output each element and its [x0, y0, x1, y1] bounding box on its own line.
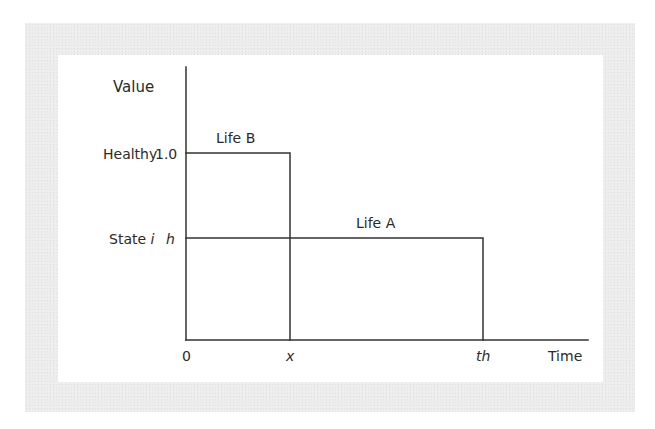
- diagram-canvas: [0, 0, 655, 429]
- life-a-label: Life A: [356, 216, 395, 230]
- tick-x-label: x: [286, 349, 294, 363]
- state-i-label: State i: [109, 232, 154, 246]
- x-axis-label: Time: [548, 349, 582, 363]
- state-text: State: [109, 231, 151, 247]
- y-axis-label: Value: [113, 80, 154, 95]
- state-index: i: [151, 231, 155, 247]
- life-a-rect: [186, 238, 483, 340]
- tick-zero-label: 0: [182, 349, 191, 363]
- tick-h-label: h: [166, 232, 175, 246]
- life-b-label: Life B: [216, 131, 255, 145]
- tick-th-label: th: [476, 349, 490, 363]
- healthy-label: Healthy: [103, 147, 157, 161]
- life-b-rect: [186, 153, 290, 340]
- tick-one-label: 1.0: [155, 147, 177, 161]
